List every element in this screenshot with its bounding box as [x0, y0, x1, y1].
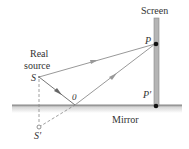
source-marker: [38, 76, 40, 78]
source-label: S: [31, 73, 36, 83]
point-p-prime-label: P′: [143, 90, 151, 100]
real-source-label-line2: source: [24, 61, 50, 71]
lloyds-mirror-diagram: [0, 0, 189, 149]
virtual-source-marker: [37, 125, 41, 129]
real-source-label-line1: Real: [30, 49, 48, 59]
point-p-prime-dot: [154, 104, 159, 109]
arrow-icon: [90, 60, 98, 64]
arrow-icon: [109, 73, 117, 80]
screen-bar: [154, 18, 159, 106]
point-p-label: P: [145, 36, 151, 46]
screen-label: Screen: [141, 6, 168, 16]
mirror-label: Mirror: [112, 115, 139, 125]
point-p-dot: [154, 42, 159, 47]
reflection-point-label: 0: [72, 93, 77, 102]
image-source-label: S′: [34, 131, 41, 141]
